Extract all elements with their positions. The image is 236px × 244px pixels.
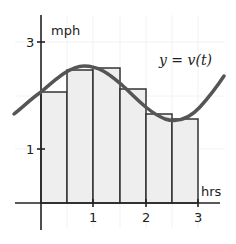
x-tick-label-3: 3 [194, 210, 202, 225]
bar-2 [67, 70, 93, 203]
curve-label: y = v(t) [158, 52, 212, 68]
bar-6 [172, 119, 198, 203]
x-tick-label-1: 1 [89, 210, 97, 225]
x-tick-label-2: 2 [142, 210, 150, 225]
bar-1 [41, 92, 67, 203]
y-axis-unit-label: mph [51, 23, 80, 38]
y-tick-label-1: 1 [26, 142, 34, 157]
bar-5 [146, 114, 172, 203]
riemann-sum-chart: 3 1 1 2 3 mph hrs y = v(t) [0, 0, 236, 244]
riemann-bars [41, 68, 198, 203]
bar-3 [93, 68, 120, 203]
y-tick-label-3: 3 [26, 35, 34, 50]
x-axis-unit-label: hrs [201, 184, 222, 199]
